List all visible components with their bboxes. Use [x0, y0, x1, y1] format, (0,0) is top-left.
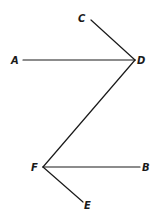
- segment-CD: [91, 20, 135, 60]
- segment-DF: [43, 60, 135, 167]
- segment-FE: [43, 167, 83, 202]
- label-B: B: [142, 162, 150, 173]
- geometry-diagram: A C D F B E: [0, 0, 152, 211]
- label-C: C: [78, 13, 86, 24]
- label-A: A: [10, 55, 19, 66]
- label-D: D: [137, 55, 145, 66]
- label-F: F: [31, 162, 38, 173]
- label-E: E: [84, 200, 91, 211]
